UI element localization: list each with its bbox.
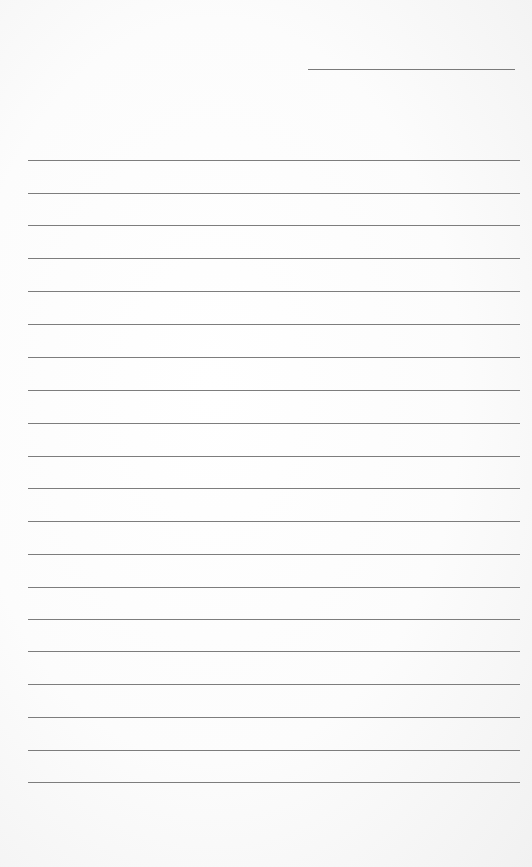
ruled-line xyxy=(28,357,520,358)
ruled-line xyxy=(28,456,520,457)
date-line xyxy=(308,69,515,70)
ruled-line xyxy=(28,488,520,489)
ruled-line xyxy=(28,619,520,620)
ruled-line xyxy=(28,225,520,226)
ruled-line xyxy=(28,684,520,685)
ruled-line xyxy=(28,390,520,391)
ruled-line xyxy=(28,554,520,555)
ruled-line xyxy=(28,717,520,718)
ruled-line xyxy=(28,750,520,751)
ruled-line xyxy=(28,423,520,424)
lined-paper xyxy=(0,0,532,867)
ruled-line xyxy=(28,324,520,325)
ruled-line xyxy=(28,291,520,292)
ruled-line xyxy=(28,651,520,652)
ruled-line xyxy=(28,258,520,259)
ruled-line xyxy=(28,587,520,588)
ruled-line xyxy=(28,782,520,783)
ruled-line xyxy=(28,160,520,161)
ruled-line xyxy=(28,521,520,522)
ruled-line xyxy=(28,193,520,194)
